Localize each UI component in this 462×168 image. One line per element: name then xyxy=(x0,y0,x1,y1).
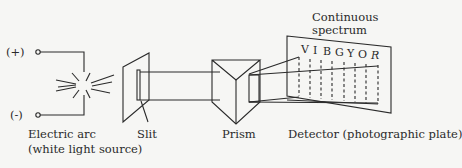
electric-arc-burst-icon xyxy=(56,73,114,98)
dispersed-rays xyxy=(249,57,378,103)
spectrum-label-line2: spectrum xyxy=(312,24,367,37)
prism-label: Prism xyxy=(222,128,256,141)
slit-plate xyxy=(123,53,149,122)
prism xyxy=(212,60,260,124)
spectrum-lines xyxy=(299,57,378,104)
circuit-wires xyxy=(36,50,84,117)
slit-label: Slit xyxy=(137,128,157,141)
light-beam xyxy=(140,72,220,100)
source-label-line2: (white light source) xyxy=(28,143,142,156)
spectrum-letter-o: O xyxy=(358,48,367,61)
spectrum-letter-r: R xyxy=(371,49,379,62)
spectrum-letter-i: I xyxy=(313,44,317,57)
negative-terminal-label: (-) xyxy=(10,109,23,122)
spectrum-letter-b: B xyxy=(323,45,331,58)
source-label-line1: Electric arc xyxy=(28,128,96,141)
spectrum-letter-y: Y xyxy=(347,47,354,60)
spectrum-letter-v: V xyxy=(301,43,309,56)
positive-terminal-label: (+) xyxy=(6,46,25,59)
spectrum-letter-g: G xyxy=(335,46,344,59)
detector-label: Detector (photographic plate) xyxy=(288,128,462,141)
